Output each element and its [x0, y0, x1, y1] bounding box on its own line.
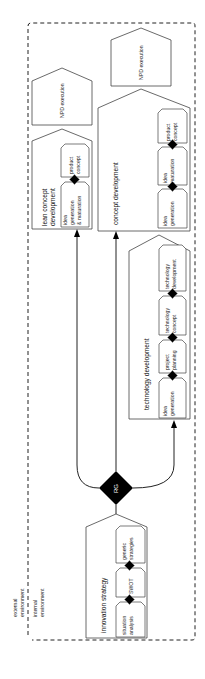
- external-label-1: external: [12, 599, 18, 617]
- lean-concept-title-1: lean concept: [41, 188, 49, 226]
- svg-text:idea: idea: [162, 406, 168, 416]
- arrowhead-lean: [74, 229, 80, 237]
- svg-text:concept: concept: [171, 314, 177, 333]
- svg-text:generation: generation: [169, 201, 175, 226]
- technology-development-title: technology development: [143, 338, 151, 410]
- svg-text:idea: idea: [162, 173, 168, 183]
- svg-text:concept: concept: [75, 155, 81, 174]
- svg-text:project: project: [164, 354, 170, 370]
- svg-text:& maturation: & maturation: [76, 195, 82, 225]
- tech-step-technology-development: technology development: [159, 245, 186, 291]
- external-label-2: environment: [19, 588, 25, 617]
- tech-step-project-planning: project planning: [159, 340, 186, 373]
- svg-text:analysis: analysis: [128, 616, 134, 635]
- svg-text:generic: generic: [121, 543, 127, 560]
- svg-text:product: product: [68, 156, 74, 174]
- svg-text:NPD execution: NPD execution: [138, 45, 144, 80]
- svg-text:development: development: [171, 259, 177, 289]
- svg-text:generation: generation: [169, 391, 175, 416]
- concept-development: concept development idea generation idea…: [98, 89, 190, 231]
- strategy-step-swot: SWOT: [116, 568, 145, 597]
- concept-step-product-concept: product concept: [158, 109, 187, 143]
- strategy-step-situation-analysis: situation analysis: [116, 602, 145, 637]
- svg-text:technology: technology: [164, 264, 170, 289]
- concept-step-idea-maturation: idea maturation: [158, 147, 187, 185]
- lean-concept-title-2: development: [49, 188, 57, 226]
- npd-execution-right: NPD execution: [111, 28, 171, 86]
- svg-text:maturation: maturation: [169, 158, 175, 183]
- svg-text:situation: situation: [121, 616, 127, 635]
- innovation-strategy-title: innovation strategy: [100, 577, 108, 633]
- svg-text:concept: concept: [172, 122, 178, 141]
- svg-text:product: product: [165, 123, 171, 141]
- lean-step-idea-generation-maturation: idea generation & maturation: [61, 182, 89, 227]
- arrowhead-concept: [113, 231, 119, 239]
- svg-text:idea: idea: [162, 216, 168, 226]
- rg-gate-label: RG: [113, 484, 119, 493]
- svg-text:NPD execution: NPD execution: [59, 83, 65, 118]
- npd-execution-left: NPD execution: [32, 68, 92, 125]
- concept-development-title: concept development: [112, 162, 120, 225]
- svg-text:technology: technology: [164, 308, 170, 333]
- lean-concept-development: lean concept development idea generation…: [32, 129, 92, 229]
- svg-text:SWOT: SWOT: [128, 578, 134, 594]
- internal-label-2: environment: [39, 588, 45, 617]
- concept-step-idea-generation: idea generation: [158, 189, 187, 228]
- lean-step-product-concept: product concept: [61, 144, 89, 177]
- svg-text:strategies: strategies: [128, 537, 134, 560]
- svg-text:planning: planning: [171, 350, 177, 370]
- technology-development: technology development idea generation p…: [129, 235, 190, 419]
- internal-label-1: internal: [32, 600, 38, 617]
- innovation-strategy: innovation strategy situation analysis S…: [86, 514, 147, 638]
- rg-gate: RG: [99, 471, 133, 505]
- arrowhead-technology: [171, 420, 177, 428]
- svg-text:generation: generation: [69, 200, 75, 225]
- svg-text:idea: idea: [62, 215, 68, 225]
- strategy-step-generic-strategies: generic strategies: [116, 526, 145, 563]
- arrow-to-technology-development: [133, 427, 174, 488]
- arrow-to-lean-concept: [77, 236, 99, 488]
- tech-step-technology-concept: technology concept: [159, 296, 186, 335]
- tech-step-idea-generation: idea generation: [159, 378, 186, 418]
- process-diagram: external environment internal environmen…: [0, 0, 205, 679]
